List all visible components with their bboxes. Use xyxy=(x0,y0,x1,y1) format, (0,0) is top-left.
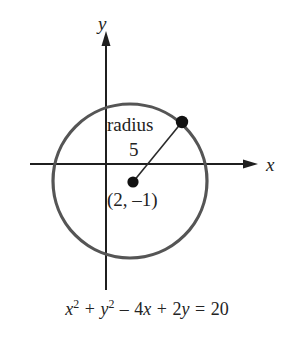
equation-operator-4: = xyxy=(194,299,206,319)
equation-term2-exponent: 2 xyxy=(108,297,114,311)
equation-operator-3: + xyxy=(156,299,168,319)
x-axis xyxy=(30,160,258,169)
equation-term1-exponent: 2 xyxy=(73,297,79,311)
y-axis xyxy=(102,31,111,290)
circle-diagram xyxy=(0,0,294,350)
equation-right-hand-side: 20 xyxy=(211,299,229,319)
equation-term4-coefficient: 2 xyxy=(173,299,182,319)
equation-operator-2: – xyxy=(119,299,130,319)
circle-equation: x2 + y2 – 4x + 2y = 20 xyxy=(0,299,294,320)
circle-point-dot xyxy=(176,116,188,128)
radius-value-label: 5 xyxy=(129,140,139,159)
radius-label: radius xyxy=(107,115,153,134)
equation-operator-1: + xyxy=(84,299,96,319)
center-point-dot xyxy=(127,176,138,187)
y-axis-label: y xyxy=(98,14,106,33)
center-coordinates-label: (2, –1) xyxy=(107,190,158,209)
equation-term3-variable: x xyxy=(143,299,151,319)
x-axis-label: x xyxy=(266,155,274,174)
equation-term3-coefficient: 4 xyxy=(134,299,143,319)
x-axis-arrowhead-icon xyxy=(243,160,258,169)
equation-term4-variable: y xyxy=(182,299,190,319)
